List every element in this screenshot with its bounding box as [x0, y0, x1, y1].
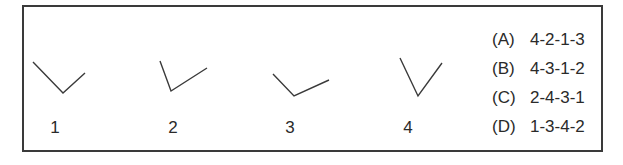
angle-4: [400, 58, 442, 96]
option-letter: (A): [492, 25, 530, 54]
option-letter: (D): [492, 112, 530, 141]
option-sequence: 1-3-4-2: [530, 117, 585, 136]
option-letter: (C): [492, 83, 530, 112]
option-d[interactable]: (D)1-3-4-2: [492, 112, 585, 141]
option-letter: (B): [492, 54, 530, 83]
option-sequence: 2-4-3-1: [530, 88, 585, 107]
angle-3: [273, 74, 329, 96]
angle-1: [33, 62, 85, 93]
option-sequence: 4-3-1-2: [530, 59, 585, 78]
option-b[interactable]: (B)4-3-1-2: [492, 54, 585, 83]
option-a[interactable]: (A)4-2-1-3: [492, 25, 585, 54]
option-sequence: 4-2-1-3: [530, 30, 585, 49]
angle-3-label: 3: [280, 118, 300, 138]
answer-options: (A)4-2-1-3 (B)4-3-1-2 (C)2-4-3-1 (D)1-3-…: [492, 25, 585, 141]
angle-2: [160, 61, 207, 91]
angle-2-label: 2: [163, 118, 183, 138]
angle-1-label: 1: [45, 118, 65, 138]
option-c[interactable]: (C)2-4-3-1: [492, 83, 585, 112]
angle-4-label: 4: [398, 118, 418, 138]
